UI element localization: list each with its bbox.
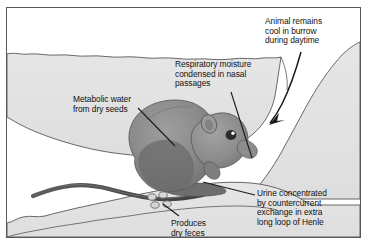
label-animal-remains-cool: Animal remains cool in burrow during day… [265, 17, 322, 46]
rat-eye [226, 130, 237, 140]
label-metabolic-water: Metabolic water from dry seeds [73, 95, 131, 114]
label-produces-dry-feces: Produces dry feces [171, 219, 206, 238]
figure-container: Animal remains cool in burrow during day… [0, 0, 370, 251]
figure-frame: Animal remains cool in burrow during day… [6, 7, 361, 238]
rat-eye-highlight [231, 132, 234, 135]
feces-pellet [148, 194, 156, 200]
feces-pellet [159, 192, 167, 198]
feces-pellet [151, 202, 159, 208]
label-urine-concentrated: Urine concentrated by countercurrent exc… [257, 189, 327, 227]
feces-pellet [163, 201, 171, 207]
rat-head [191, 113, 248, 168]
label-respiratory-moisture: Respiratory moisture condensed in nasal … [175, 60, 251, 89]
